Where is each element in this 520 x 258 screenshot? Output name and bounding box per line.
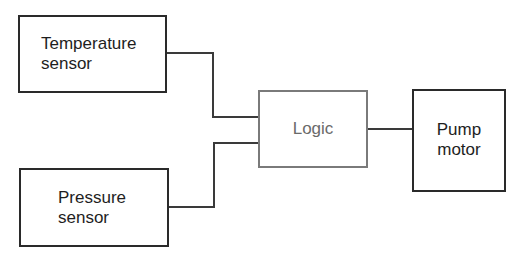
- logic-label: Logic: [293, 119, 334, 139]
- pump-motor-label-line2: motor: [437, 140, 481, 160]
- pressure-sensor-box: Pressure sensor: [19, 168, 169, 247]
- temperature-sensor-label-line2: sensor: [41, 54, 136, 74]
- logic-box: Logic: [258, 90, 368, 168]
- wire-pressure-to-logic: [169, 143, 258, 207]
- pressure-sensor-label: Pressure sensor: [58, 188, 126, 228]
- pump-motor-label-line1: Pump: [437, 120, 481, 140]
- temperature-sensor-label: Temperature sensor: [41, 34, 136, 74]
- wire-temperature-to-logic: [167, 53, 258, 117]
- temperature-sensor-label-line1: Temperature: [41, 34, 136, 54]
- pressure-sensor-label-line1: Pressure: [58, 188, 126, 208]
- pressure-sensor-label-line2: sensor: [58, 208, 126, 228]
- pump-motor-box: Pump motor: [412, 89, 506, 192]
- pump-motor-label: Pump motor: [437, 120, 481, 160]
- temperature-sensor-box: Temperature sensor: [18, 15, 167, 93]
